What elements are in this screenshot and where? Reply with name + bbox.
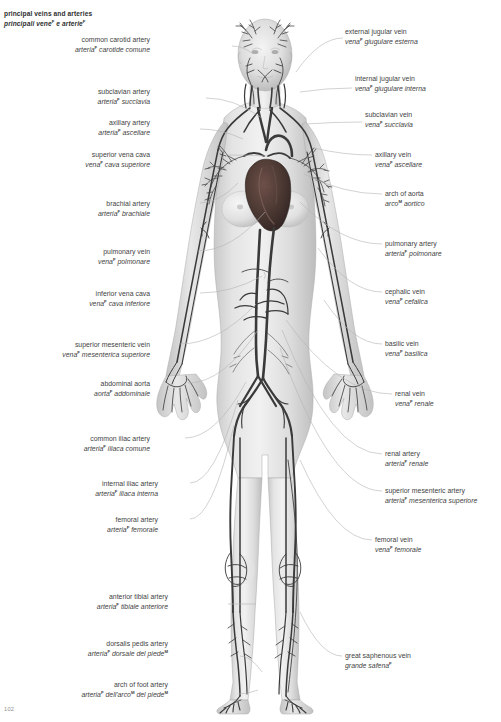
leader-line-common-carotid-artery [232,46,252,53]
superscript-marker: F [405,459,408,464]
callout-femoral-artery[interactable]: femoral arteryarteriaF femorale [0,516,158,535]
callout-internal-iliac-artery[interactable]: internal iliac arteryarteriaF iliaca int… [0,480,158,499]
superscript-marker: F [110,389,113,394]
leader-line-arch-of-foot-artery [238,690,258,694]
leader-line-subclavian-vein [306,122,362,124]
callout-arch-of-foot-artery[interactable]: arch of foot arteryarteriaF dell'arcoM d… [0,681,168,700]
superscript-marker: F [113,257,116,262]
callout-term-en: common carotid artery [0,36,150,45]
superscript-marker: F [405,249,408,254]
callout-superior-vena-cava[interactable]: superior vena cavavenaF cava superiore [0,151,150,170]
callout-pulmonary-vein[interactable]: pulmonary veinvenaF polmonare [0,248,150,267]
callout-term-en: axillary vein [375,151,501,160]
superscript-marker: F [360,37,363,42]
callout-common-carotid-artery[interactable]: common carotid arteryarteriaF carotide c… [0,36,150,55]
leader-line-superior-mesenteric-vein [180,304,256,344]
callout-term-en: internal jugular vein [355,75,501,84]
callout-term-it: arteriaF carotide comune [0,45,150,55]
callout-superior-mesenteric-artery[interactable]: superior mesenteric arteryarteriaF mesen… [385,487,501,506]
callout-term-en: arch of foot artery [0,681,168,690]
callout-femoral-vein[interactable]: femoral veinvenaF femorale [375,536,501,555]
callout-term-it: arteriaF succlavia [0,97,150,107]
leader-line-abdominal-aorta [188,330,258,383]
leader-line-femoral-artery [190,425,234,519]
callout-term-it: venaF basilica [385,349,501,359]
callout-superior-mesenteric-vein[interactable]: superior mesenteric veinvenaF mesenteric… [0,341,150,360]
leader-line-external-jugular-vein [296,38,343,72]
leader-line-axillary-artery [200,129,243,139]
superscript-marker: F [380,120,383,125]
callout-anterior-tibial-artery[interactable]: anterior tibial arteryarteriaF tibiale a… [0,593,168,612]
callout-basilic-vein[interactable]: basilic veinvenaF basilica [385,340,501,359]
callout-pulmonary-artery[interactable]: pulmonary arteryarteriaF polmonare [385,240,501,259]
callout-term-it: arteriaF dell'arcoM del piedeM [0,690,168,700]
leader-line-internal-jugular-vein [300,88,352,92]
leader-line-cephalic-vein [318,248,382,292]
callout-internal-jugular-vein[interactable]: internal jugular veinvenaF giugulare int… [355,75,501,94]
callout-axillary-artery[interactable]: axillary arteryarteriaF ascellare [0,119,150,138]
callout-brachial-artery[interactable]: brachial arteryarteriaF brachiale [0,200,150,219]
callout-term-en: anterior tibial artery [0,593,168,602]
callout-term-it: venaF femorale [375,545,501,555]
superscript-marker: F [100,160,103,165]
leader-line-common-iliac-artery [185,382,246,438]
callout-arch-of-aorta[interactable]: arch of aortaarcoM aortico [385,190,501,209]
superscript-marker: F [107,649,110,654]
superscript-marker: F [118,128,121,133]
callout-term-it: venaF giugulare esterna [345,37,501,47]
callout-term-it: venaF cava superiore [0,160,150,170]
superscript-marker: F [95,45,98,50]
page-folio: 102 [4,706,14,712]
superscript-marker: F [127,525,130,530]
callout-renal-vein[interactable]: renal veinvenaF renale [395,390,501,409]
leader-line-great-saphenous-vein [300,612,342,656]
superscript-marker: F [390,545,393,550]
callout-term-it: arteriaF brachiale [0,209,150,219]
callout-term-en: cephalic vein [385,288,501,297]
callout-term-en: common iliac artery [0,435,150,444]
superscript-marker: F [116,602,119,607]
callout-great-saphenous-vein[interactable]: great saphenous veingrande safenaF [345,652,501,671]
callout-term-en: femoral artery [0,516,158,525]
leader-lines [0,0,501,722]
superscript-marker: F [103,444,106,449]
callout-axillary-vein[interactable]: axillary veinvenaF ascellare [375,151,501,170]
superscript-marker: M [164,649,168,654]
callout-term-en: arch of aorta [385,190,501,199]
callout-term-it: venaF polmonare [0,257,150,267]
callout-cephalic-vein[interactable]: cephalic veinvenaF cefalica [385,288,501,307]
callout-dorsalis-pedis-artery[interactable]: dorsalis pedis arteryarteriaF dorsale de… [0,640,168,659]
callout-term-it: venaF renale [395,399,501,409]
superscript-marker: F [117,209,120,214]
callout-term-it: arteriaF mesenterica superiore [385,496,501,506]
callout-abdominal-aorta[interactable]: abdominal aortaaortaF addominale [0,380,150,399]
callout-subclavian-artery[interactable]: subclavian arteryarteriaF succlavia [0,88,150,107]
callout-term-en: superior vena cava [0,151,150,160]
callout-inferior-vena-cava[interactable]: inferior vena cavavenaF cava inferiore [0,290,150,309]
superscript-marker: F [390,160,393,165]
leader-line-inferior-vena-cava [200,276,262,293]
callout-common-iliac-artery[interactable]: common iliac arteryarteriaF iliaca comun… [0,435,150,454]
superscript-marker: F [400,349,403,354]
callout-term-en: renal vein [395,390,501,399]
superscript-marker: F [104,299,107,304]
callout-term-en: internal iliac artery [0,480,158,489]
leader-line-superior-vena-cava [228,155,268,156]
callout-renal-artery[interactable]: renal arteryarteriaF renale [385,450,501,469]
leader-line-arch-of-aorta [304,174,382,194]
leader-line-brachial-artery [200,183,238,203]
callout-term-it: venaF cava inferiore [0,299,150,309]
superscript-marker: F [115,489,118,494]
callout-subclavian-vein[interactable]: subclavian veinvenaF succlavia [365,111,501,130]
superscript-marker: F [117,97,120,102]
leader-line-renal-vein [286,320,392,394]
callout-external-jugular-vein[interactable]: external jugular veinvenaF giugulare est… [345,28,501,47]
callout-term-it: arteriaF tibiale anteriore [0,602,168,612]
callout-term-en: external jugular vein [345,28,501,37]
superscript-marker: F [77,350,80,355]
callout-term-it: arteriaF renale [385,459,501,469]
leader-line-internal-iliac-artery [190,400,238,483]
superscript-marker: F [400,297,403,302]
callout-term-en: renal artery [385,450,501,459]
superscript-marker: M [131,690,135,695]
